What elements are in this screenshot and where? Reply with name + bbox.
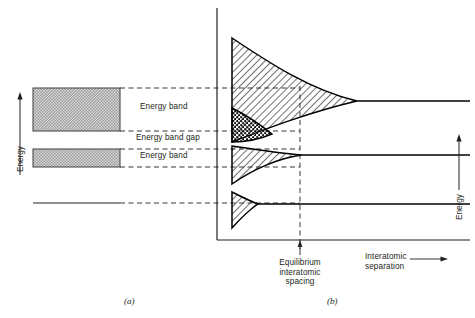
equilibrium-spacing-line1: Equilibrium [258,258,342,268]
lower-energy-band-block [33,149,120,167]
up-arrow-icon [456,134,461,142]
equilibrium-spacing-line3: spacing [258,277,342,287]
up-arrow-icon [17,92,22,100]
energy-band-gap-label: Energy band gap [136,133,200,143]
up-arrow-icon [298,240,303,247]
lower-energy-band-label: Energy band [140,151,188,161]
interatomic-separation-line1: Interatomic [365,252,407,262]
middle-hatched-band [232,146,470,184]
energy-axis-left-label: Energy [16,146,25,172]
energy-axis-right-label: Energy [455,194,464,220]
right-arrow-icon [441,256,449,261]
upper-energy-band-label: Energy band [140,102,188,112]
panel-b-caption: (b) [327,296,338,306]
upper-hatched-band [232,38,470,142]
interatomic-separation-arrow [410,256,448,261]
energy-band-figure: Energy Energy Energy band Energy band ga… [0,0,475,318]
panel-a-caption: (a) [124,296,135,306]
lowest-hatched-band [232,192,470,228]
interatomic-separation-label: Interatomic separation [365,252,407,271]
upper-energy-band-block [33,88,120,131]
equilibrium-spacing-line2: interatomic [258,268,342,278]
interatomic-separation-line2: separation [365,262,407,272]
energy-axis-right [456,134,461,190]
equilibrium-spacing-label: Equilibrium interatomic spacing [258,258,342,287]
